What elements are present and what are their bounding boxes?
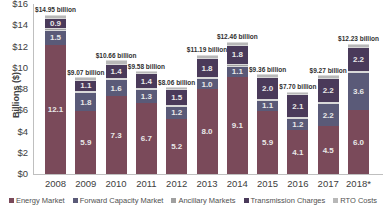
- bar-2018: 6.03.62.2: [348, 44, 369, 174]
- segment-value-label: 1.8: [201, 64, 212, 73]
- segment-value-label: 5.9: [262, 138, 273, 147]
- y-tick-label: $8: [2, 84, 28, 94]
- segment-value-label: 8.0: [201, 127, 212, 136]
- segment-value-label: 4.5: [323, 146, 334, 155]
- segment-energy-market: 6.0: [348, 110, 369, 174]
- segment-value-label: 1.8: [80, 98, 91, 107]
- y-tick-label: $2: [2, 148, 28, 158]
- segment-rto-costs: [318, 75, 339, 78]
- segment-forward-capacity-market: 1.6: [106, 79, 127, 96]
- segment-transmission-charges: 1.1: [75, 80, 96, 92]
- legend-swatch-icon: [171, 198, 176, 203]
- segment-ancillary-markets: [318, 102, 339, 103]
- bar-2011: 6.71.31.4: [136, 71, 157, 174]
- segment-rto-costs: [197, 55, 218, 58]
- bar-total-label: $9.07 billion: [67, 69, 104, 76]
- legend-item: Transmission Charges: [244, 196, 326, 205]
- segment-forward-capacity-market: 2.2: [318, 103, 339, 126]
- legend-item: Energy Market: [9, 196, 65, 205]
- segment-ancillary-markets: [106, 78, 127, 79]
- bar-2008: 12.11.50.9: [45, 15, 66, 174]
- bar-total-label: $9.36 billion: [249, 66, 286, 73]
- bar-total-label: $10.66 billion: [96, 52, 137, 59]
- segment-value-label: 1.4: [141, 77, 152, 86]
- segment-ancillary-markets: [136, 88, 157, 89]
- legend: Energy MarketForward Capacity MarketAnci…: [0, 196, 386, 205]
- legend-item: RTO Costs: [333, 196, 377, 205]
- x-tick-label: 2009: [75, 178, 96, 189]
- segment-value-label: 1.5: [50, 33, 61, 42]
- segment-transmission-charges: 2.2: [318, 78, 339, 101]
- segment-rto-costs: [45, 15, 66, 18]
- segment-rto-costs: [75, 77, 96, 79]
- y-tick-label: $6: [2, 105, 28, 115]
- segment-value-label: 4.1: [292, 148, 303, 157]
- segment-ancillary-markets: [197, 77, 218, 78]
- segment-ancillary-markets: [45, 28, 66, 30]
- segment-ancillary-markets: [287, 117, 308, 118]
- segment-value-label: 9.1: [232, 121, 243, 130]
- segment-transmission-charges: 1.8: [227, 45, 248, 64]
- segment-value-label: 1.5: [171, 93, 182, 102]
- segment-transmission-charges: 0.9: [45, 18, 66, 28]
- bar-2009: 5.91.81.1: [75, 77, 96, 174]
- segment-rto-costs: [106, 60, 127, 63]
- segment-energy-market: 7.3: [106, 96, 127, 174]
- bar-2015: 5.91.12.0: [257, 74, 278, 174]
- bar-total-label: $12.23 billion: [338, 35, 379, 42]
- bar-2017: 4.52.22.2: [318, 75, 339, 174]
- segment-energy-market: 4.5: [318, 126, 339, 174]
- segment-ancillary-markets: [75, 91, 96, 92]
- y-tick-label: $14: [2, 20, 28, 30]
- segment-energy-market: 4.1: [287, 130, 308, 174]
- segment-energy-market: 9.1: [227, 77, 248, 174]
- segment-transmission-charges: 1.4: [106, 64, 127, 79]
- segment-value-label: 1.1: [80, 81, 91, 90]
- segment-value-label: 1.0: [201, 80, 212, 89]
- bar-2016: 4.11.22.1: [287, 92, 308, 174]
- legend-label: RTO Costs: [340, 196, 377, 205]
- x-axis-line: [33, 174, 383, 175]
- y-axis-title: Billions ($): [11, 65, 21, 125]
- bar-total-label: $12.46 billion: [217, 33, 258, 40]
- bar-2013: 8.01.01.8: [197, 55, 218, 174]
- bar-total-label: $9.27 billion: [310, 67, 347, 74]
- bar-2010: 7.31.61.4: [106, 60, 127, 174]
- segment-ancillary-markets: [257, 99, 278, 100]
- x-tick-label: 2011: [136, 178, 156, 189]
- segment-value-label: 2.2: [323, 86, 334, 95]
- legend-swatch-icon: [244, 198, 249, 203]
- y-axis-line: [33, 4, 34, 174]
- bar-2014: 9.11.11.8: [227, 42, 248, 174]
- segment-forward-capacity-market: 1.8: [75, 92, 96, 111]
- x-tick-label: 2015: [257, 178, 278, 189]
- segment-rto-costs: [348, 44, 369, 47]
- segment-energy-market: 8.0: [197, 89, 218, 174]
- bar-total-label: $9.58 billion: [128, 63, 165, 70]
- segment-value-label: 3.6: [353, 87, 364, 96]
- x-tick-label: 2016: [287, 178, 308, 189]
- segment-value-label: 1.8: [232, 50, 243, 59]
- segment-value-label: 2.2: [353, 55, 364, 64]
- stacked-bar-chart: Billions ($) $0$2$4$6$8$10$12$14$16 12.1…: [0, 0, 386, 219]
- segment-forward-capacity-market: 1.2: [166, 106, 187, 119]
- bar-total-label: $11.19 billion: [187, 46, 227, 53]
- segment-value-label: 1.2: [171, 108, 182, 117]
- segment-ancillary-markets: [348, 71, 369, 72]
- legend-swatch-icon: [9, 198, 14, 203]
- segment-value-label: 2.1: [292, 102, 303, 111]
- segment-forward-capacity-market: 1.3: [136, 89, 157, 103]
- segment-value-label: 0.9: [50, 19, 61, 28]
- x-tick-label: 2008: [45, 178, 66, 189]
- legend-label: Ancillary Markets: [178, 196, 235, 205]
- segment-energy-market: 12.1: [45, 45, 66, 174]
- segment-value-label: 7.3: [111, 131, 122, 140]
- segment-forward-capacity-market: 1.1: [257, 100, 278, 112]
- segment-forward-capacity-market: 1.1: [227, 66, 248, 78]
- y-tick-label: $10: [2, 63, 28, 73]
- segment-transmission-charges: 1.5: [166, 89, 187, 105]
- segment-transmission-charges: 2.0: [257, 77, 278, 98]
- bar-total-label: $8.06 billion: [158, 79, 195, 86]
- segment-value-label: 12.1: [48, 105, 64, 114]
- legend-label: Energy Market: [16, 196, 65, 205]
